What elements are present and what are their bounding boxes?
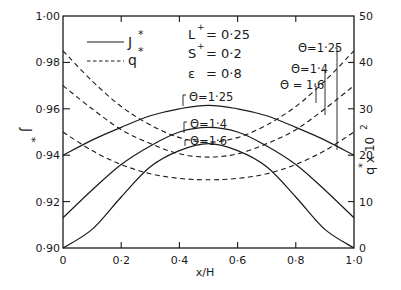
leader-dashed-125 [335, 48, 337, 150]
legend: J * q * [87, 28, 144, 68]
x-tick-label: 0 [60, 254, 67, 267]
param-l-symbol: L [188, 27, 196, 42]
param-epsilon-value: = 0·8 [206, 66, 242, 81]
param-s-symbol: S [188, 46, 196, 61]
x-tick-label: 0·4 [171, 254, 189, 267]
y-axis-right-ticks: 01020304050 [348, 10, 373, 255]
param-s-plus: + [197, 41, 205, 51]
j-curve-16 [63, 144, 354, 248]
y-tick-label: 0·94 [36, 149, 61, 162]
leader-dashed-14 [323, 70, 325, 115]
y-right-tick-label: 10 [359, 196, 373, 209]
leader-solid-125 [183, 95, 186, 106]
y-right-tick-label: 0 [359, 242, 366, 255]
label-solid-theta-125: Θ=1·25 [189, 90, 233, 104]
y-right-tick-label: 40 [359, 56, 373, 69]
label-solid-theta-16: Θ=1·6 [190, 134, 227, 148]
chart-figure: 00·20·40·60·81·0 0·900·920·940·960·981·0… [0, 0, 401, 290]
y-tick-label: 0·92 [36, 196, 61, 209]
y-tick-label: 1·00 [36, 10, 61, 23]
leader-solid-14 [184, 122, 187, 133]
x-tick-label: 1·0 [345, 254, 363, 267]
param-s-value: = 0·2 [206, 46, 242, 61]
solid-curve-annotations: Θ=1·25 Θ=1·4 Θ=1·6 [183, 90, 233, 148]
y-right-label-scale: x 10 [363, 137, 377, 163]
legend-j-star: * [138, 28, 144, 41]
x-tick-label: 0·8 [287, 254, 305, 267]
y-right-tick-label: 30 [359, 103, 373, 116]
param-l-value: = 0·25 [206, 27, 250, 42]
x-axis-label: x/H [196, 266, 215, 279]
y-axis-left-label: J * [19, 127, 38, 143]
parameter-block: L + = 0·25 S + = 0·2 ε = 0·8 [188, 22, 250, 81]
y-axis-left-ticks: 0·900·920·940·960·981·00 [36, 10, 71, 255]
param-l-plus: + [197, 22, 205, 32]
y-right-tick-label: 50 [359, 10, 373, 23]
y-tick-label: 0·98 [36, 56, 61, 69]
y-tick-label: 0·90 [36, 242, 61, 255]
param-epsilon-symbol: ε [188, 66, 195, 81]
legend-q-star: * [138, 45, 144, 58]
label-dashed-theta-16: Θ = 1·6 [280, 78, 324, 92]
x-tick-label: 0·2 [112, 254, 130, 267]
leader-solid-16 [185, 140, 188, 146]
y-label-star: * [25, 137, 38, 143]
label-dashed-theta-14: Θ=1·4 [291, 62, 328, 76]
x-tick-label: 0·6 [229, 254, 247, 267]
legend-q-label: q [128, 52, 137, 68]
y-label-j: J [19, 127, 35, 132]
legend-j-label: J [127, 34, 132, 50]
y-tick-label: 0·96 [36, 103, 61, 116]
label-solid-theta-14: Θ=1·4 [190, 117, 227, 131]
y-right-label-exponent: 2 [359, 124, 369, 130]
